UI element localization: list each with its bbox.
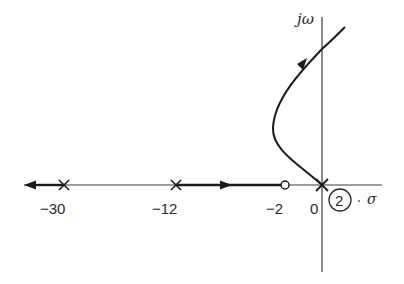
tick-label-minus-12: −12 xyxy=(152,201,177,216)
real-axis-label: σ xyxy=(367,192,377,206)
tick-label-minus-30: −30 xyxy=(40,201,65,216)
multiplicity-label: 2 xyxy=(335,193,343,208)
tick-label-zero: 0 xyxy=(310,201,318,216)
root-locus-plot xyxy=(0,0,404,284)
imag-axis-label: jω xyxy=(297,12,314,27)
zero-marker-minus-2 xyxy=(281,181,289,189)
dot-separator xyxy=(358,200,360,202)
arrow-right-icon xyxy=(220,181,232,190)
arrow-left-icon xyxy=(24,181,36,190)
locus-branch-complex xyxy=(273,27,345,185)
tick-label-minus-2: −2 xyxy=(266,201,283,216)
